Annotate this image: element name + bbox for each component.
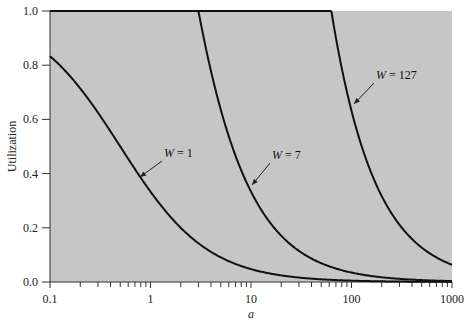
plot-area [50, 11, 452, 282]
x-tick-label: 100 [343, 292, 361, 306]
x-axis-label: a [248, 307, 254, 321]
x-tick-label: 10 [245, 292, 257, 306]
label-w1: W = 1 [164, 146, 193, 160]
x-tick-label: 0.1 [43, 292, 58, 306]
x-tick-label: 1000 [440, 292, 464, 306]
y-tick-label: 0.6 [23, 112, 38, 126]
label-w7: W = 7 [272, 148, 301, 162]
y-tick-label: 1.0 [23, 4, 38, 18]
label-w127: W = 127 [376, 68, 417, 82]
y-tick-label: 0.0 [23, 275, 38, 289]
x-tick-label: 1 [148, 292, 154, 306]
y-axis-label: Utilization [5, 121, 19, 172]
y-tick-label: 0.8 [23, 58, 38, 72]
utilization-chart: 0.00.20.40.60.81.00.11101001000 W = 1W =… [0, 0, 471, 326]
y-tick-label: 0.2 [23, 221, 38, 235]
y-tick-label: 0.4 [23, 167, 38, 181]
